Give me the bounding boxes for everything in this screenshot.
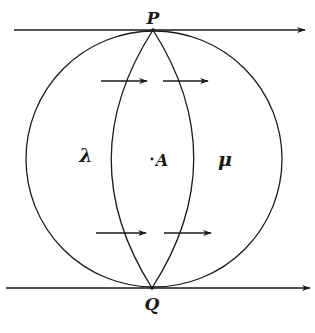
left-lens-arc <box>111 30 153 288</box>
diagram-canvas: P Q λ A μ <box>0 0 315 333</box>
outer-circle <box>26 31 282 287</box>
label-p: P <box>146 8 161 28</box>
label-a: A <box>154 151 168 170</box>
label-mu: μ <box>218 148 232 170</box>
point-q <box>150 286 154 290</box>
point-a-dot <box>151 158 154 161</box>
label-lambda: λ <box>78 144 92 166</box>
label-q: Q <box>145 294 160 314</box>
point-p <box>151 28 155 32</box>
